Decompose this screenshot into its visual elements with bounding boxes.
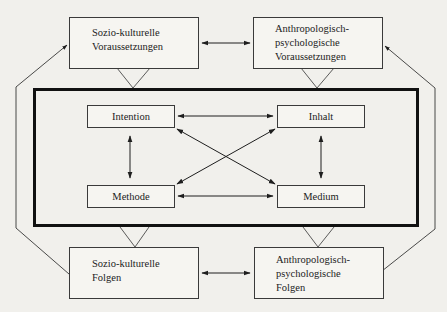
box-label-line: Anthropologisch- <box>276 253 383 267</box>
box-label: Medium <box>303 190 339 204</box>
funnel-top-left <box>117 68 150 88</box>
box-anthropologisch-psychologische-voraussetzungen: Anthropologisch- psychologische Vorausse… <box>253 17 383 69</box>
box-inhalt: Inhalt <box>277 105 365 128</box>
feedback-loop-right <box>382 46 435 271</box>
box-label: Inhalt <box>309 110 334 124</box>
box-label-line: psychologische <box>275 36 382 50</box>
box-anthropologisch-psychologische-folgen: Anthropologisch- psychologische Folgen <box>254 247 384 299</box>
box-label-line: Sozio-kulturelle <box>92 26 198 40</box>
box-label-line: Voraussetzungen <box>275 50 382 64</box>
box-label-line: Folgen <box>92 271 198 285</box>
funnel-bottom-right <box>303 227 334 247</box>
didactic-model-diagram: Sozio-kulturelle Voraussetzungen Anthrop… <box>0 0 447 312</box>
box-methode: Methode <box>87 185 175 208</box>
funnel-top-right <box>301 68 334 88</box>
feedback-loop-left <box>16 45 69 274</box>
box-medium: Medium <box>277 185 365 208</box>
box-label: Methode <box>112 190 149 204</box>
box-label-line: Sozio-kulturelle <box>92 257 198 271</box>
box-label-line: Folgen <box>276 281 383 295</box>
box-intention: Intention <box>87 105 175 128</box>
box-label-line: psychologische <box>276 267 383 281</box>
box-sozio-kulturelle-voraussetzungen: Sozio-kulturelle Voraussetzungen <box>69 17 199 69</box>
box-label-line: Voraussetzungen <box>92 40 198 54</box>
funnel-bottom-left <box>120 227 149 247</box>
box-sozio-kulturelle-folgen: Sozio-kulturelle Folgen <box>69 247 199 299</box>
box-label-line: Anthropologisch- <box>275 22 382 36</box>
box-label: Intention <box>112 110 150 124</box>
